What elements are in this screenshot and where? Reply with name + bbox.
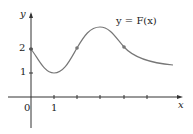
curve-label: y = F(x) xyxy=(116,15,157,26)
point-0-2 xyxy=(29,47,33,51)
graph-figure: y = F(x) x y 0 1 1 2 xyxy=(0,0,193,134)
curve-F xyxy=(31,27,173,73)
x-tick-label-1: 1 xyxy=(51,102,57,113)
y-tick-label-1: 1 xyxy=(20,66,26,77)
origin-label: 0 xyxy=(24,102,30,113)
point-4-2 xyxy=(122,45,126,49)
y-axis-arrow-icon xyxy=(29,12,33,18)
graph-canvas xyxy=(0,0,193,134)
x-axis-label: x xyxy=(178,99,184,110)
point-2-2 xyxy=(75,46,79,50)
y-tick-label-2: 2 xyxy=(19,42,25,53)
y-axis-label: y xyxy=(20,8,26,19)
